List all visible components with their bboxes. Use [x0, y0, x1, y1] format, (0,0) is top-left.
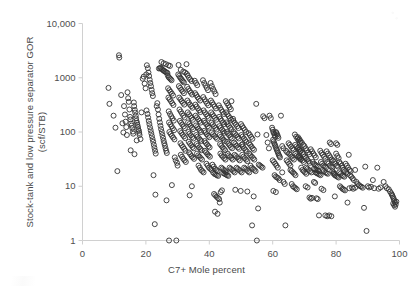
- y-tick-label: 1: [34, 235, 76, 246]
- data-point-marker: [316, 213, 321, 218]
- data-point-marker: [111, 113, 116, 118]
- data-point-marker: [278, 113, 283, 118]
- data-point-marker: [152, 222, 157, 227]
- data-point-marker: [254, 101, 259, 106]
- x-axis-title: C7+ Mole percent: [0, 264, 413, 276]
- data-point-marker: [370, 178, 375, 183]
- x-tick-label: 20: [131, 248, 161, 259]
- data-point-marker: [172, 155, 177, 160]
- x-tick-label: 40: [194, 248, 224, 259]
- data-point-marker: [251, 194, 256, 199]
- data-point-marker: [229, 99, 234, 104]
- data-point-marker: [255, 132, 260, 137]
- data-point-marker: [124, 133, 129, 138]
- data-point-marker: [346, 152, 351, 157]
- data-point-marker: [121, 130, 126, 135]
- x-tick-label: 0: [68, 248, 98, 259]
- data-point-marker: [363, 164, 368, 169]
- data-point-marker: [286, 141, 291, 146]
- data-point-marker: [144, 63, 149, 68]
- data-point-marker: [169, 183, 174, 188]
- data-point-marker: [252, 147, 257, 152]
- x-tick-label: 100: [385, 248, 413, 259]
- data-point-marker: [126, 99, 131, 104]
- data-point-marker: [329, 142, 334, 147]
- data-point-marker: [332, 194, 337, 199]
- data-point-layer: [106, 53, 399, 243]
- data-point-marker: [335, 142, 340, 147]
- data-point-marker: [283, 223, 288, 228]
- data-point-marker: [187, 193, 192, 198]
- data-point-marker: [142, 81, 147, 86]
- x-tick-label: 60: [258, 248, 288, 259]
- data-point-marker: [200, 169, 205, 174]
- data-point-marker: [106, 85, 111, 90]
- data-point-marker: [256, 206, 261, 211]
- data-point-marker: [233, 187, 238, 192]
- data-point-marker: [153, 192, 158, 197]
- data-point-marker: [265, 140, 270, 145]
- data-point-marker: [189, 184, 194, 189]
- x-tick-label: 80: [321, 248, 351, 259]
- data-point-marker: [217, 200, 222, 205]
- y-tick-label: 10: [34, 180, 76, 191]
- data-point-marker: [144, 108, 149, 113]
- data-point-marker: [362, 205, 367, 210]
- data-point-marker: [264, 133, 269, 138]
- data-point-marker: [208, 81, 213, 86]
- data-point-marker: [143, 86, 148, 91]
- data-point-marker: [313, 180, 318, 185]
- data-point-marker: [151, 173, 156, 178]
- data-point-marker: [176, 62, 181, 67]
- data-point-marker: [115, 169, 120, 174]
- data-point-marker: [124, 125, 129, 130]
- y-tick-label: 10,000: [34, 18, 76, 29]
- data-point-marker: [280, 170, 285, 175]
- data-point-marker: [250, 223, 255, 228]
- data-point-marker: [122, 112, 127, 117]
- data-point-marker: [184, 62, 189, 67]
- data-point-marker: [164, 198, 169, 203]
- data-point-marker: [119, 93, 124, 98]
- data-point-marker: [266, 146, 271, 151]
- data-point-marker: [127, 107, 132, 112]
- data-point-marker: [113, 125, 118, 130]
- data-point-marker: [139, 110, 144, 115]
- data-point-marker: [327, 140, 332, 145]
- data-point-marker: [345, 200, 350, 205]
- data-point-marker: [125, 90, 130, 95]
- data-point-marker: [132, 152, 137, 157]
- data-point-marker: [375, 165, 380, 170]
- y-tick-label: 1000: [34, 72, 76, 83]
- data-point-marker: [128, 148, 133, 153]
- y-tick-label: 100: [34, 126, 76, 137]
- data-point-marker: [245, 189, 250, 194]
- data-point-marker: [107, 101, 112, 106]
- data-point-marker: [155, 101, 160, 106]
- data-point-marker: [150, 94, 155, 99]
- data-point-marker: [364, 228, 369, 233]
- data-point-marker: [334, 141, 339, 146]
- data-point-marker: [122, 104, 127, 109]
- scatter-chart-figure: Stock-tank and low pressure separator GO…: [0, 0, 413, 288]
- data-point-marker: [238, 188, 243, 193]
